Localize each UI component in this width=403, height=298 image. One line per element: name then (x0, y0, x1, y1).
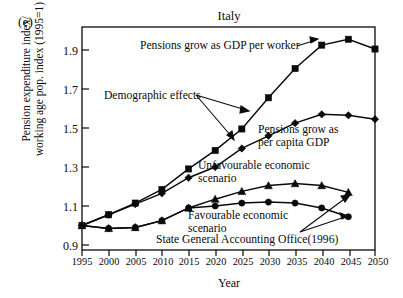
series-marker (159, 218, 165, 224)
series-marker (79, 222, 85, 228)
x-tick-marks (82, 250, 375, 256)
series-marker (372, 46, 378, 52)
series-marker (371, 116, 378, 123)
plot-frame (82, 27, 375, 250)
series-marker (265, 95, 271, 101)
series-marker (318, 111, 325, 118)
series-marker (239, 200, 245, 206)
series-marker (185, 166, 191, 172)
series-marker (212, 147, 218, 153)
series-marker (292, 200, 298, 206)
y-tick-marks (82, 50, 89, 245)
chart-plot-area (0, 0, 403, 298)
series-marker (265, 132, 272, 139)
series-marker (212, 203, 218, 209)
series-marker (319, 42, 325, 48)
series-marker (292, 65, 298, 71)
series-marker (106, 225, 112, 231)
series-marker (319, 205, 325, 211)
series-marker (185, 205, 191, 211)
series-marker (132, 224, 138, 230)
series-marker (291, 119, 298, 126)
series-marker (185, 174, 192, 181)
figure-panel: (e) Italy Pension expenditure index/ wor… (0, 0, 403, 298)
series-marker (265, 199, 271, 205)
series-marker (345, 36, 351, 42)
series-marker (345, 112, 352, 119)
data-series (79, 199, 352, 232)
series-marker (239, 126, 245, 132)
